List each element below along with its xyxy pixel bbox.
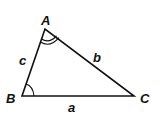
- vertex-label-c: C: [140, 91, 150, 106]
- vertex-label-b: B: [6, 91, 15, 106]
- vertex-label-a: A: [40, 13, 50, 28]
- side-label-a: a: [68, 100, 75, 115]
- side-label-c: c: [19, 53, 27, 68]
- triangle-abc: [22, 29, 134, 96]
- triangle-diagram: A B C a b c: [0, 0, 160, 134]
- angle-mark-b: [26, 84, 34, 96]
- side-label-b: b: [93, 50, 101, 65]
